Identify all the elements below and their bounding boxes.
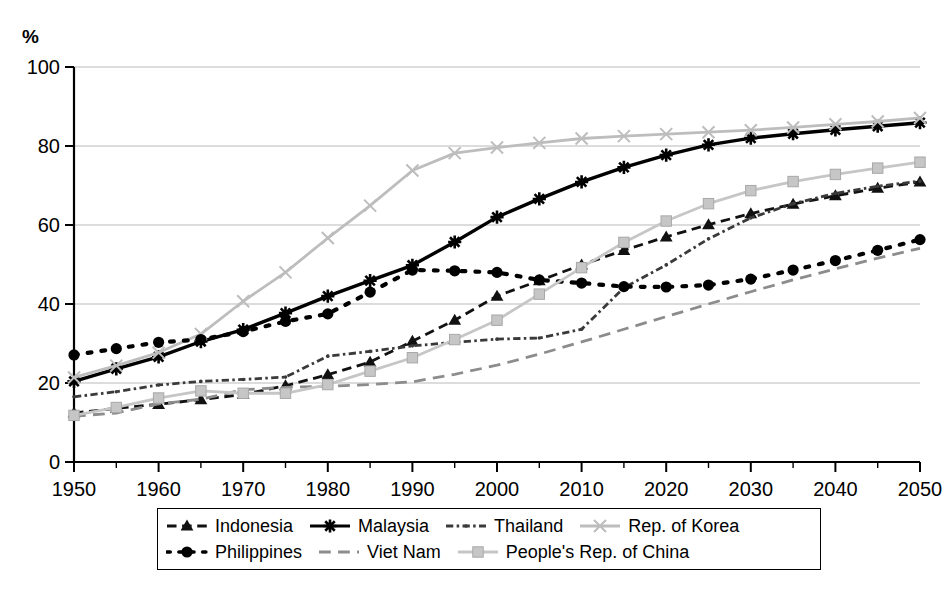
legend-item-viet-nam[interactable]: Viet Nam xyxy=(318,543,441,561)
data-point-marker xyxy=(660,148,673,161)
data-point-marker xyxy=(449,265,460,276)
legend-item-label: Viet Nam xyxy=(367,543,441,561)
data-point-marker xyxy=(491,267,502,278)
legend-row-1: IndonesiaMalaysiaThailandRep. of Korea xyxy=(166,513,812,539)
x-axis-tick-label: 1970 xyxy=(221,478,266,500)
data-point-marker xyxy=(749,216,753,220)
y-axis-tick-label: 100 xyxy=(27,56,60,78)
legend-item-people-s-rep-of-china[interactable]: People's Rep. of China xyxy=(457,543,690,561)
data-point-marker xyxy=(196,386,206,396)
data-point-marker xyxy=(69,410,79,420)
data-point-marker xyxy=(745,274,756,285)
data-point-marker xyxy=(533,192,546,205)
data-point-marker xyxy=(181,546,192,557)
x-axis-tick-label: 1980 xyxy=(306,478,351,500)
data-point-marker xyxy=(448,235,461,248)
legend-swatch-marker xyxy=(181,546,192,557)
x-axis-tick-label: 2010 xyxy=(559,478,604,500)
legend-item-indonesia[interactable]: Indonesia xyxy=(166,517,293,535)
data-point-marker xyxy=(238,388,248,398)
data-point-marker xyxy=(111,402,121,412)
data-point-marker xyxy=(321,290,334,303)
y-axis-tick-label: 0 xyxy=(49,451,60,473)
x-axis-tick-label: 1960 xyxy=(136,478,181,500)
x-axis-tick-label: 2000 xyxy=(475,478,520,500)
data-point-marker xyxy=(364,200,376,212)
data-point-marker xyxy=(365,287,376,298)
data-point-marker xyxy=(153,393,163,403)
data-point-marker xyxy=(746,185,756,195)
y-axis-tick-label: 80 xyxy=(38,135,60,157)
legend-swatch xyxy=(309,517,351,535)
legend-item-label: People's Rep. of China xyxy=(506,543,690,561)
data-point-marker xyxy=(617,161,630,174)
data-point-marker xyxy=(322,308,333,319)
legend-item-label: Rep. of Korea xyxy=(628,517,739,535)
data-point-marker xyxy=(538,336,542,340)
data-point-marker xyxy=(918,179,922,183)
data-point-marker xyxy=(619,237,629,247)
line-chart-plot: 0204060801001950196019701980199020002010… xyxy=(0,0,952,596)
legend-item-label: Philippines xyxy=(215,543,302,561)
legend-swatch-marker xyxy=(464,524,468,528)
legend-swatch-holder xyxy=(166,517,208,535)
data-point-marker xyxy=(407,353,417,363)
data-point-marker xyxy=(280,316,291,327)
data-point-marker xyxy=(490,211,503,224)
chart-legend: IndonesiaMalaysiaThailandRep. of Korea P… xyxy=(157,508,821,570)
legend-item-malaysia[interactable]: Malaysia xyxy=(309,517,429,535)
data-point-marker xyxy=(406,164,418,176)
data-point-marker xyxy=(661,281,672,292)
data-point-marker xyxy=(914,234,925,245)
data-point-marker xyxy=(664,263,668,267)
data-point-marker xyxy=(491,290,504,301)
legend-swatch-holder xyxy=(309,517,351,535)
data-point-marker xyxy=(284,375,288,379)
data-point-marker xyxy=(703,279,714,290)
y-axis-tick-label: 20 xyxy=(38,372,60,394)
legend-swatch-holder xyxy=(318,543,360,561)
data-point-marker xyxy=(322,232,334,244)
legend-item-label: Thailand xyxy=(494,517,563,535)
legend-item-label: Malaysia xyxy=(358,517,429,535)
data-point-marker xyxy=(576,277,587,288)
legend-swatch-holder xyxy=(457,543,499,561)
data-point-marker xyxy=(495,337,499,341)
data-point-marker xyxy=(834,192,838,196)
legend-swatch-holder xyxy=(579,517,621,535)
data-point-marker xyxy=(68,349,79,360)
legend-item-thailand[interactable]: Thailand xyxy=(445,517,563,535)
data-point-marker xyxy=(872,245,883,256)
data-point-marker xyxy=(703,198,713,208)
data-point-marker xyxy=(534,274,545,285)
data-point-marker xyxy=(450,334,460,344)
legend-swatch-marker xyxy=(473,547,483,557)
legend-swatch xyxy=(166,543,208,561)
data-point-marker xyxy=(618,281,629,292)
y-axis-tick-label: 60 xyxy=(38,214,60,236)
x-axis-tick-label: 2020 xyxy=(644,478,689,500)
data-point-marker xyxy=(492,315,502,325)
legend-swatch xyxy=(318,543,360,561)
data-point-marker xyxy=(411,344,415,348)
data-point-marker xyxy=(791,202,795,206)
legend-swatch xyxy=(579,517,621,535)
data-point-marker xyxy=(407,264,418,275)
data-point-marker xyxy=(157,383,161,387)
legend-item-label: Indonesia xyxy=(215,517,293,535)
legend-swatch-holder xyxy=(166,543,208,561)
legend-item-philippines[interactable]: Philippines xyxy=(166,543,302,561)
x-axis-tick-label: 2040 xyxy=(813,478,858,500)
legend-swatch-marker xyxy=(323,519,336,532)
data-point-marker xyxy=(72,395,76,399)
data-point-marker xyxy=(280,388,290,398)
data-point-marker xyxy=(702,138,715,151)
x-axis-tick-label: 1990 xyxy=(390,478,435,500)
data-point-marker xyxy=(115,390,119,394)
data-point-marker xyxy=(788,264,799,275)
legend-swatch xyxy=(457,543,499,561)
legend-item-rep-of-korea[interactable]: Rep. of Korea xyxy=(579,517,739,535)
data-point-marker xyxy=(364,274,377,287)
data-point-marker xyxy=(237,295,249,307)
data-point-marker xyxy=(575,175,588,188)
